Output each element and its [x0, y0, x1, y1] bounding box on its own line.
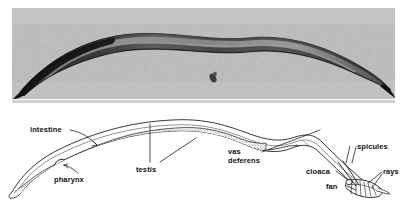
label-rays: rays [383, 168, 399, 177]
label-deferens: deferens [228, 157, 260, 166]
schematic-drawing [0, 100, 411, 202]
micrograph-image [12, 8, 395, 99]
label-pharynx: pharynx [54, 176, 84, 185]
schematic-panel [0, 100, 411, 202]
label-spicules: spicules [357, 143, 388, 152]
micrograph-panel [12, 8, 395, 99]
label-intestine: intestine [30, 126, 62, 135]
cloaca-structure [346, 179, 352, 184]
label-cloaca: cloaca [306, 168, 330, 177]
nematode-figure: intestine pharynx testis vas deferens sp… [0, 0, 411, 202]
label-fan: fan [326, 183, 338, 192]
label-testis: testis [136, 166, 156, 175]
photo-plate-edge [12, 100, 395, 103]
